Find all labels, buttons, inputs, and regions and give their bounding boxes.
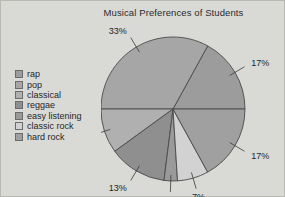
legend-item-reggae[interactable]: reggae xyxy=(15,100,107,110)
legend-label-reggae: reggae xyxy=(27,100,55,110)
legend-item-rap[interactable]: rap xyxy=(15,69,107,79)
leader-line xyxy=(170,175,171,192)
legend-swatch-pop xyxy=(15,81,23,89)
legend-label-easy-listening: easy listening xyxy=(27,111,82,121)
legend-item-classical[interactable]: classical xyxy=(15,90,107,100)
legend-label-hard-rock: hard rock xyxy=(27,132,65,142)
legend-label-classical: classical xyxy=(27,90,61,100)
pie-chart-figure: Musical Preferences of Students rap pop … xyxy=(0,0,285,197)
chart-title: Musical Preferences of Students xyxy=(1,7,285,18)
pie-plot-area: 17%33%10%13%3%7%17% xyxy=(101,23,285,197)
legend-item-easy-listening[interactable]: easy listening xyxy=(15,111,107,121)
legend: rap pop classical reggae easy listening … xyxy=(15,69,107,142)
legend-swatch-classic-rock xyxy=(15,122,23,130)
legend-swatch-rap xyxy=(15,70,23,78)
legend-item-pop[interactable]: pop xyxy=(15,79,107,89)
legend-label-rap: rap xyxy=(27,69,40,79)
slice-percentage-label: 7% xyxy=(192,192,205,197)
pie-svg: 17%33%10%13%3%7%17% xyxy=(101,23,285,197)
legend-label-pop: pop xyxy=(27,80,42,90)
legend-swatch-reggae xyxy=(15,101,23,109)
slice-percentage-label: 33% xyxy=(109,26,127,36)
slice-percentage-label: 3% xyxy=(164,195,177,197)
slice-percentage-label: 17% xyxy=(251,151,269,161)
slice-percentage-label: 17% xyxy=(251,58,269,68)
legend-item-classic-rock[interactable]: classic rock xyxy=(15,121,107,131)
legend-swatch-easy-listening xyxy=(15,112,23,120)
legend-swatch-classical xyxy=(15,91,23,99)
legend-label-classic-rock: classic rock xyxy=(27,121,74,131)
pie-slices xyxy=(101,37,245,181)
legend-item-hard-rock[interactable]: hard rock xyxy=(15,131,107,141)
slice-percentage-label: 13% xyxy=(109,183,127,193)
legend-swatch-hard-rock xyxy=(15,133,23,141)
